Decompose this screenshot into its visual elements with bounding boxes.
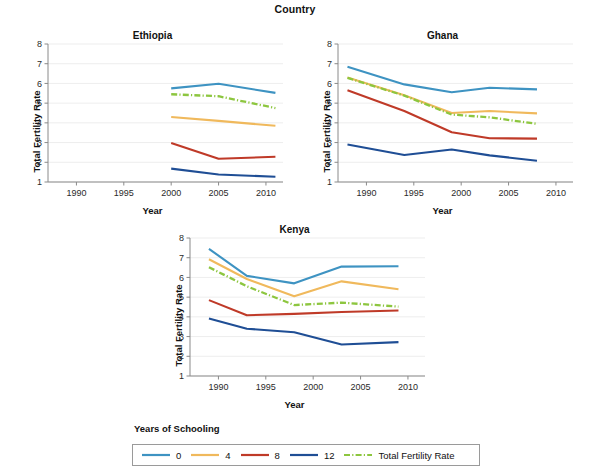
svg-text:1995: 1995	[114, 188, 134, 198]
svg-text:2010: 2010	[256, 188, 276, 198]
panel-ethiopia: Ethiopia Total Fertility Rate Year 12345…	[10, 30, 295, 220]
svg-text:2000: 2000	[451, 188, 471, 198]
svg-text:4: 4	[179, 312, 184, 322]
svg-text:2010: 2010	[546, 188, 566, 198]
svg-text:7: 7	[179, 253, 184, 263]
svg-text:3: 3	[179, 332, 184, 342]
svg-text:2005: 2005	[351, 382, 371, 392]
svg-text:2: 2	[179, 351, 184, 361]
legend-item-12[interactable]: 12	[289, 449, 335, 461]
svg-text:2: 2	[37, 157, 42, 167]
legend-item-4[interactable]: 4	[190, 449, 230, 461]
legend-label: 8	[275, 450, 280, 461]
legend-items: 04812Total Fertility Rate	[133, 445, 479, 465]
plot-ghana: 1234567819901995200020052010	[300, 38, 585, 208]
svg-text:6: 6	[37, 79, 42, 89]
svg-text:8: 8	[179, 233, 184, 243]
legend-label: Total Fertility Rate	[378, 450, 454, 461]
svg-text:4: 4	[327, 118, 332, 128]
legend-title: Years of Schooling	[134, 423, 220, 434]
svg-text:2000: 2000	[161, 188, 181, 198]
legend-label: 4	[225, 450, 230, 461]
legend-item-8[interactable]: 8	[240, 449, 280, 461]
legend-label: 12	[324, 450, 335, 461]
svg-text:1995: 1995	[256, 382, 276, 392]
svg-text:2010: 2010	[398, 382, 418, 392]
legend-swatch-0-icon	[141, 449, 171, 461]
legend-item-total-fertility-rate[interactable]: Total Fertility Rate	[343, 449, 454, 461]
svg-text:5: 5	[327, 98, 332, 108]
svg-text:4: 4	[37, 118, 42, 128]
svg-text:5: 5	[37, 98, 42, 108]
svg-text:8: 8	[327, 39, 332, 49]
legend-label: 0	[176, 450, 181, 461]
svg-text:2005: 2005	[209, 188, 229, 198]
svg-text:5: 5	[179, 292, 184, 302]
svg-text:2005: 2005	[499, 188, 519, 198]
svg-text:1: 1	[37, 177, 42, 187]
legend-box: 04812Total Fertility Rate	[132, 444, 480, 466]
svg-text:6: 6	[179, 273, 184, 283]
legend-swatch-12-icon	[289, 449, 319, 461]
svg-text:1: 1	[179, 371, 184, 381]
svg-text:7: 7	[37, 59, 42, 69]
plot-kenya: 1234567819901995200020052010	[152, 232, 437, 402]
svg-text:3: 3	[37, 138, 42, 148]
legend-swatch-4-icon	[190, 449, 220, 461]
legend-item-0[interactable]: 0	[141, 449, 181, 461]
svg-text:1990: 1990	[356, 188, 376, 198]
svg-text:7: 7	[327, 59, 332, 69]
svg-text:1: 1	[327, 177, 332, 187]
plot-ethiopia: 1234567819901995200020052010	[10, 38, 295, 208]
svg-text:6: 6	[327, 79, 332, 89]
svg-text:2: 2	[327, 157, 332, 167]
figure-title: Country	[0, 3, 590, 15]
figure-root: Country Ethiopia Total Fertility Rate Ye…	[0, 0, 590, 476]
svg-text:8: 8	[37, 39, 42, 49]
svg-text:1990: 1990	[208, 382, 228, 392]
svg-text:2000: 2000	[303, 382, 323, 392]
svg-text:3: 3	[327, 138, 332, 148]
legend-swatch-total-fertility-rate-icon	[343, 449, 373, 461]
svg-text:1990: 1990	[66, 188, 86, 198]
panel-ghana: Ghana Total Fertility Rate Year 12345678…	[300, 30, 585, 220]
legend-swatch-8-icon	[240, 449, 270, 461]
panel-kenya: Kenya Total Fertility Rate Year 12345678…	[152, 224, 437, 414]
svg-text:1995: 1995	[404, 188, 424, 198]
